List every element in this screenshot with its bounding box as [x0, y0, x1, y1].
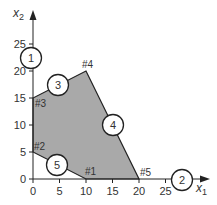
x1-tick-25: 25	[159, 185, 171, 197]
constraint-2-label: 2	[179, 174, 185, 186]
constraint-5-marker: 5	[47, 155, 68, 176]
vertex-label-3: #3	[35, 98, 47, 109]
x1-tick-5: 5	[56, 185, 62, 197]
x1-tick-labels: 0 5 10 15 20 25	[30, 185, 172, 197]
vertex-label-5: #5	[140, 167, 152, 178]
x1-tick-20: 20	[133, 185, 145, 197]
constraint-1-label: 1	[28, 52, 34, 64]
x2-tick-10: 10	[14, 119, 26, 131]
x2-tick-15: 15	[14, 92, 26, 104]
x2-tick-5: 5	[20, 146, 26, 158]
lp-feasible-region-diagram: 0 5 10 15 20 25 0 5 10 15 20 25 x2 x1 #1…	[0, 0, 217, 205]
constraint-4-label: 4	[110, 119, 116, 131]
x1-tick-10: 10	[80, 185, 92, 197]
x2-tick-0: 0	[20, 173, 26, 185]
constraint-5-label: 5	[54, 159, 60, 171]
x2-tick-25: 25	[14, 38, 26, 50]
x1-tick-15: 15	[106, 185, 118, 197]
vertex-label-1: #1	[85, 166, 97, 177]
constraint-4-marker: 4	[103, 115, 124, 136]
x1-tick-0: 0	[30, 185, 36, 197]
constraint-3-marker: 3	[48, 75, 69, 96]
x2-arrow-icon	[30, 10, 37, 20]
constraint-3-label: 3	[55, 79, 61, 91]
vertex-label-2: #2	[34, 141, 46, 152]
vertex-label-4: #4	[82, 59, 94, 70]
x2-axis-label: x2	[12, 6, 24, 22]
x1-axis-label: x1	[195, 181, 207, 197]
constraint-1-marker: 1	[21, 48, 42, 69]
constraint-2-marker: 2	[172, 170, 193, 191]
